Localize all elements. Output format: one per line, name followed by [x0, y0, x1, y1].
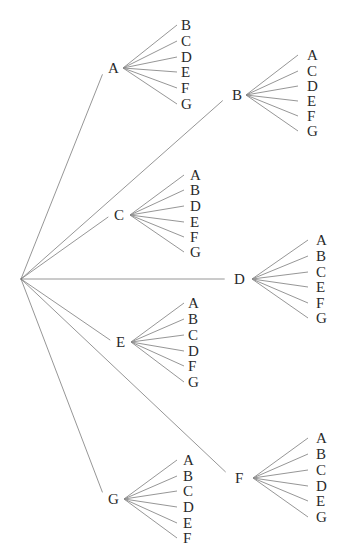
leaf-label-be: E — [307, 93, 316, 109]
leaf-label-bg: G — [307, 123, 318, 139]
branch-d: DABCEFG — [234, 232, 327, 326]
leaf-label-eg: G — [188, 374, 199, 390]
node-label-f: F — [235, 470, 243, 486]
branch-g: GABCDEF — [108, 452, 194, 546]
leaf-label-fd: D — [316, 478, 327, 494]
node-label-c: C — [114, 207, 124, 223]
node-label-e: E — [116, 334, 125, 350]
node-label-g: G — [108, 491, 119, 507]
leaf-label-dc: C — [316, 264, 326, 280]
branch-b: BACDEFG — [232, 47, 318, 139]
leaf-label-gd: D — [183, 499, 194, 515]
edge-root-to-e — [21, 279, 110, 340]
edge-g-to-c — [124, 491, 177, 499]
leaf-label-ae: E — [181, 64, 190, 80]
root-node — [20, 278, 22, 280]
branch-c: CABDEFG — [114, 167, 201, 260]
leaf-label-ce: E — [190, 214, 199, 230]
leaf-label-ag: G — [181, 96, 192, 112]
leaf-label-bd: D — [307, 78, 318, 94]
tree-diagram: ABCDEFGBACDEFGCABDEFGDABCEFGEABCDFGFABCD… — [0, 0, 343, 560]
leaf-label-ca: A — [190, 167, 201, 183]
leaf-label-fg: G — [316, 509, 327, 525]
edge-e-to-d — [131, 342, 184, 351]
leaf-label-ga: A — [183, 452, 194, 468]
leaf-label-ed: D — [188, 343, 199, 359]
leaf-label-df: F — [316, 295, 324, 311]
edge-c-to-a — [130, 175, 184, 215]
leaf-label-fe: E — [316, 493, 325, 509]
leaf-label-bf: F — [307, 108, 315, 124]
leaf-label-ea: A — [188, 295, 199, 311]
root-edges — [21, 74, 226, 492]
edge-c-to-b — [130, 190, 184, 215]
leaf-label-bc: C — [307, 63, 317, 79]
leaf-label-eb: B — [188, 311, 198, 327]
leaf-label-gc: C — [183, 483, 193, 499]
edge-a-to-g — [123, 68, 177, 104]
leaf-label-ab: B — [181, 17, 191, 33]
leaf-label-ec: C — [188, 327, 198, 343]
leaf-label-ad: D — [181, 49, 192, 65]
leaf-label-ba: A — [307, 47, 318, 63]
leaf-label-cb: B — [190, 182, 200, 198]
edge-root-to-c — [21, 217, 108, 279]
leaf-label-fc: C — [316, 462, 326, 478]
leaf-label-dg: G — [316, 310, 327, 326]
leaf-label-ge: E — [183, 515, 192, 531]
leaf-label-cg: G — [190, 244, 201, 260]
edge-b-to-d — [246, 86, 298, 95]
leaf-label-ac: C — [181, 33, 191, 49]
leaf-label-db: B — [316, 248, 326, 264]
leaf-label-cd: D — [190, 198, 201, 214]
leaf-label-gb: B — [183, 468, 193, 484]
node-label-a: A — [108, 60, 119, 76]
leaf-label-gf: F — [183, 530, 191, 546]
leaf-label-af: F — [181, 80, 189, 96]
edge-c-to-d — [130, 206, 184, 215]
leaf-label-fb: B — [316, 446, 326, 462]
edge-a-to-b — [123, 25, 177, 68]
node-label-b: B — [232, 87, 242, 103]
leaf-label-ef: F — [188, 358, 196, 374]
edge-d-to-g — [252, 279, 308, 318]
leaf-label-cf: F — [190, 229, 198, 245]
leaf-label-fa: A — [316, 430, 327, 446]
branches: ABCDEFGBACDEFGCABDEFGDABCEFGEABCDFGFABCD… — [108, 17, 327, 546]
edge-root-to-g — [21, 279, 102, 492]
edge-g-to-f — [124, 499, 177, 538]
node-label-d: D — [234, 271, 245, 287]
edge-f-to-d — [253, 478, 308, 486]
edge-a-to-c — [123, 41, 177, 68]
edge-a-to-d — [123, 57, 177, 68]
branch-e: EABCDFG — [116, 295, 199, 390]
branch-f: FABCDEG — [235, 430, 327, 525]
leaf-label-de: E — [316, 279, 325, 295]
leaf-label-da: A — [316, 232, 327, 248]
edge-root-to-a — [21, 74, 102, 279]
branch-a: ABCDEFG — [108, 17, 192, 112]
